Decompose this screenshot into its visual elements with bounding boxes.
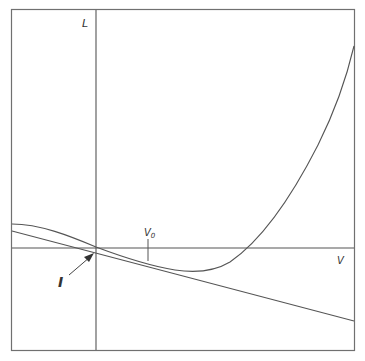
tangent-line (12, 231, 354, 321)
l-curve (12, 46, 354, 271)
v0-label: V0 (144, 227, 156, 240)
plot-frame (12, 10, 355, 351)
y-axis-label: L (82, 17, 88, 30)
x-axis-label: V (337, 255, 345, 266)
diagram: L V V0 I (0, 0, 365, 361)
point-i-label: I (58, 274, 63, 290)
